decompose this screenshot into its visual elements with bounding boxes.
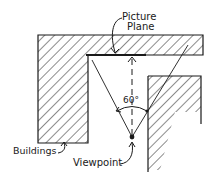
- angle-label: 60°: [123, 96, 139, 105]
- buildings-leader: [58, 143, 65, 153]
- diagram-canvas: Picture Plane 60° Buildings Viewpoint: [0, 0, 214, 180]
- picture-plane-label-line2: Plane: [127, 22, 154, 32]
- viewpoint-dot: [130, 135, 135, 140]
- viewpoint-label: Viewpoint: [73, 158, 122, 168]
- right-building: [148, 76, 201, 172]
- buildings-label: Buildings: [13, 146, 57, 156]
